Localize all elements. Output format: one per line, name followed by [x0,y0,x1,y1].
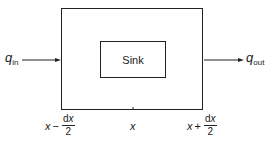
right-fraction: dx 2 [204,114,217,137]
center-var: x [130,120,136,132]
inflow-label: qin [5,50,18,67]
right-op: + [195,120,201,132]
inflow-subscript: in [12,58,18,67]
left-num-var: x [69,113,74,124]
sink-box: Sink [100,41,166,78]
left-fraction: dx 2 [62,114,75,137]
right-position-label: x + dx 2 [187,114,217,137]
right-den: 2 [207,126,213,137]
left-op: − [53,120,59,132]
left-den: 2 [65,126,71,137]
right-num-var: x [211,113,216,124]
outflow-arrowhead-icon [238,58,244,62]
center-position-label: x [130,120,136,132]
left-position-label: x − dx 2 [45,114,75,137]
outflow-subscript: out [253,58,264,67]
right-var: x [187,120,193,132]
outflow-label: qout [246,50,264,67]
sink-label: Sink [122,54,143,66]
left-var: x [45,120,51,132]
